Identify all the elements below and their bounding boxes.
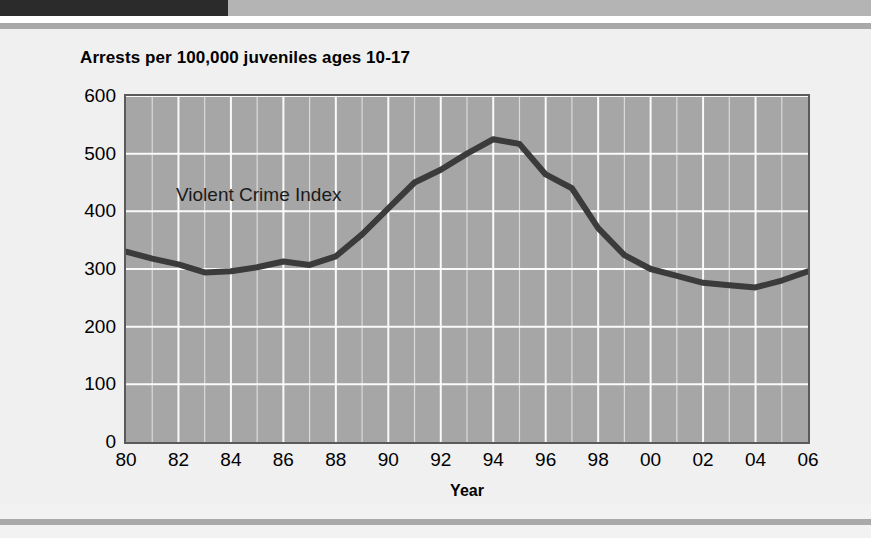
header-gray-bar (228, 0, 871, 16)
header-white-gap (0, 16, 871, 23)
x-tick-label: 86 (263, 450, 303, 469)
line-chart-svg (126, 96, 808, 442)
y-tick-label: 500 (62, 144, 116, 163)
x-tick-label: 88 (316, 450, 356, 469)
x-tick-label: 00 (631, 450, 671, 469)
x-axis-title: Year (124, 482, 810, 500)
x-tick-label: 02 (683, 450, 723, 469)
x-tick-label: 98 (578, 450, 618, 469)
series-annotation-label: Violent Crime Index (176, 184, 341, 206)
x-tick-label: 96 (526, 450, 566, 469)
y-tick-label: 600 (62, 86, 116, 105)
y-tick-label: 400 (62, 201, 116, 220)
x-tick-label: 80 (106, 450, 146, 469)
page-title: Arrests per 100,000 juveniles ages 10-17 (80, 48, 410, 68)
plot-area: Violent Crime Index (124, 94, 810, 444)
chart-page: Arrests per 100,000 juveniles ages 10-17… (0, 0, 871, 538)
y-tick-label: 100 (62, 374, 116, 393)
footer-strip (0, 525, 871, 538)
x-tick-label: 94 (473, 450, 513, 469)
header-dark-accent-bar (0, 0, 228, 16)
y-tick-label: 200 (62, 317, 116, 336)
x-tick-label: 90 (368, 450, 408, 469)
x-tick-label: 04 (736, 450, 776, 469)
y-tick-label: 300 (62, 259, 116, 278)
y-axis-tick-labels: 0100200300400500600 (58, 94, 116, 444)
x-axis-tick-labels: 8082848688909294969800020406 (124, 450, 810, 476)
y-tick-label: 0 (62, 432, 116, 451)
x-tick-label: 06 (788, 450, 828, 469)
x-tick-label: 82 (158, 450, 198, 469)
x-tick-label: 84 (211, 450, 251, 469)
x-tick-label: 92 (421, 450, 461, 469)
